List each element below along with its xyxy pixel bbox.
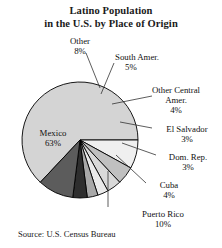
slice-label-mexico: Mexico 63% — [22, 128, 84, 148]
slice-label-mexico-name: Mexico — [22, 128, 84, 138]
slice-label-el-salvador: El Salvador 3% — [155, 124, 219, 144]
slice-label-other-central-amer-name-1: Other Central — [133, 85, 219, 95]
slice-label-other-name: Other — [57, 36, 103, 46]
slice-label-el-salvador-name: El Salvador — [155, 124, 219, 134]
slice-label-other-central-amer-percent: 4% — [133, 105, 219, 115]
chart-source-note: Source: U.S. Census Bureau — [18, 229, 116, 239]
slice-label-puerto-rico-name: Puerto Rico — [126, 209, 200, 219]
slice-label-dom-rep: Dom. Rep. 3% — [158, 152, 218, 172]
slice-label-cuba: Cuba 4% — [149, 180, 189, 200]
slice-label-other-percent: 8% — [57, 46, 103, 56]
slice-label-south-amer-name: South Amer. — [115, 52, 187, 62]
slice-label-south-amer-percent: 5% — [115, 62, 187, 72]
slice-label-other-central-amer: Other Central Amer. 4% — [133, 85, 219, 116]
slice-label-cuba-name: Cuba — [149, 180, 189, 190]
slice-label-mexico-percent: 63% — [22, 138, 84, 148]
slice-label-other: Other 8% — [57, 36, 103, 56]
slice-label-other-central-amer-name-2: Amer. — [133, 95, 219, 105]
slice-label-dom-rep-percent: 3% — [158, 162, 218, 172]
slice-label-cuba-percent: 4% — [149, 190, 189, 200]
pie-chart-figure: Latino Population in the U.S. by Place o… — [0, 0, 222, 248]
slice-label-puerto-rico: Puerto Rico 10% — [126, 209, 200, 229]
slice-label-el-salvador-percent: 3% — [155, 134, 219, 144]
slice-label-dom-rep-name: Dom. Rep. — [158, 152, 218, 162]
slice-label-puerto-rico-percent: 10% — [126, 219, 200, 229]
slice-label-south-amer: South Amer. 5% — [115, 52, 187, 72]
